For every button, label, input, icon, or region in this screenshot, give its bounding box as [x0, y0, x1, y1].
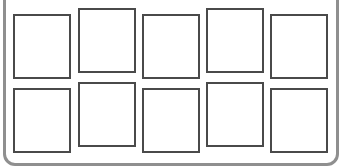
- box-r2-c2: [78, 82, 136, 147]
- box-r2-c5: [270, 88, 328, 153]
- box-r2-c3: [142, 88, 200, 153]
- box-r1-c1: [13, 14, 71, 79]
- box-r2-c1: [13, 88, 71, 153]
- box-r1-c4: [206, 8, 264, 73]
- box-r1-c3: [142, 14, 200, 79]
- box-r2-c4: [206, 82, 264, 147]
- box-r1-c5: [270, 14, 328, 79]
- box-r1-c2: [78, 8, 136, 73]
